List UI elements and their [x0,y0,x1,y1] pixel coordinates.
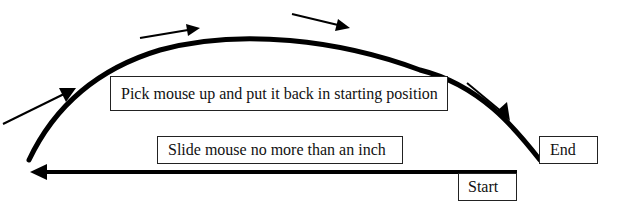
pick-up-label-box: Pick mouse up and put it back in startin… [110,76,448,111]
slide-label-box: Slide mouse no more than an inch [157,136,403,164]
direction-arrow-4 [467,83,510,121]
end-label: End [550,142,576,158]
slide-label: Slide mouse no more than an inch [168,142,386,158]
start-label-box: Start [458,173,517,201]
slide-arrow-head [30,164,47,180]
start-label: Start [468,179,498,195]
pick-up-label: Pick mouse up and put it back in startin… [121,86,438,102]
direction-arrow-2 [140,24,200,38]
end-label-box: End [539,136,598,164]
direction-arrow-3 [292,14,350,31]
